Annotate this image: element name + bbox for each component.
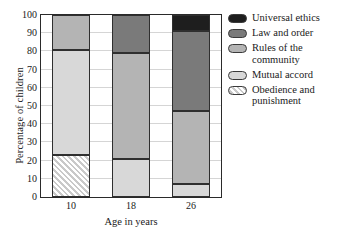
y-axis-tick-label: 0 — [32, 192, 37, 202]
bar-26: 26 — [172, 15, 210, 197]
x-axis-title: Age in years — [40, 216, 222, 227]
y-axis-tick-label: 30 — [27, 137, 37, 147]
bar-segment — [112, 53, 150, 159]
legend-label: Rules of the community — [252, 42, 303, 65]
y-axis-tick-label: 90 — [27, 28, 37, 38]
bar-segment — [172, 31, 210, 111]
bar-segment — [52, 155, 90, 197]
x-axis-tick-label: 26 — [186, 200, 196, 211]
legend-swatch-icon — [228, 44, 247, 53]
legend-item[interactable]: Obedience and punishment — [228, 84, 340, 107]
bar-segment — [172, 15, 210, 31]
bar-segment — [52, 15, 90, 50]
legend: Universal ethicsLaw and orderRules of th… — [228, 12, 340, 110]
legend-label: Obedience and punishment — [252, 84, 315, 107]
legend-swatch-icon — [228, 29, 247, 38]
bar-18: 18 — [112, 15, 150, 197]
legend-item[interactable]: Universal ethics — [228, 12, 340, 24]
y-axis-tick-label: 40 — [27, 119, 37, 129]
legend-item[interactable]: Mutual accord — [228, 69, 340, 81]
bar-segment — [52, 50, 90, 156]
legend-label: Law and order — [252, 27, 313, 39]
legend-swatch-icon — [228, 14, 247, 23]
y-axis-tick-label: 20 — [27, 156, 37, 166]
bar-segment — [112, 159, 150, 197]
y-axis-tick-label: 50 — [27, 101, 37, 111]
bar-segment — [172, 111, 210, 184]
legend-swatch-icon — [228, 71, 247, 80]
legend-swatch-icon — [228, 86, 247, 95]
stacked-bar-chart: Percentage of children 01020304050607080… — [0, 0, 340, 244]
bar-segment — [172, 184, 210, 197]
y-axis-tick-label: 10 — [27, 174, 37, 184]
bar-segment — [112, 15, 150, 53]
y-axis-tick-label: 60 — [27, 83, 37, 93]
legend-item[interactable]: Rules of the community — [228, 42, 340, 65]
legend-label: Mutual accord — [252, 69, 313, 81]
x-axis-tick-label: 10 — [66, 200, 76, 211]
y-axis-tick-label: 80 — [27, 46, 37, 56]
legend-item[interactable]: Law and order — [228, 27, 340, 39]
y-axis-tick-label: 70 — [27, 65, 37, 75]
y-axis-title: Percentage of children — [14, 41, 25, 191]
plot-area: 0102030405060708090100 101826 — [40, 14, 222, 198]
bar-10: 10 — [52, 15, 90, 197]
legend-label: Universal ethics — [252, 12, 320, 24]
y-axis-tick-label: 100 — [22, 10, 37, 20]
x-axis-tick-label: 18 — [126, 200, 136, 211]
